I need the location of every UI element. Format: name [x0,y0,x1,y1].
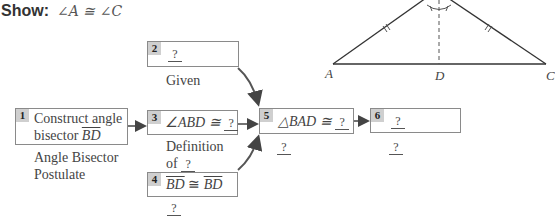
step-4-reason: ? [167,199,181,216]
answer-blank[interactable]: ? [335,116,349,130]
step-4-box: 4 BD ≅ BD [147,172,238,197]
step-5-reason: ? [277,138,291,155]
segment-bd: BD [82,128,101,143]
answer-blank[interactable]: ? [389,141,403,155]
answer-blank[interactable]: ? [168,48,182,62]
vertex-label-c: C [546,68,555,84]
segment-bd: BD [166,177,185,192]
step-number: 6 [371,109,384,122]
step-1-reason: Angle Bisector Postulate [34,149,118,183]
answer-blank[interactable]: ? [224,117,238,131]
step-6-box: 6 ? [370,108,461,133]
triangle-figure [333,0,546,64]
step-5-box: 5 △BAD ≅ ? [259,108,354,134]
step-6-reason: ? [389,138,403,155]
step-number: 5 [260,109,273,122]
vertex-label-a: A [325,66,333,82]
step-number: 2 [148,42,161,55]
arrow-4-to-5 [238,138,258,170]
step-1-box: 1 Construct angle bisector BD [15,108,128,145]
vertex-label-d: D [435,68,444,84]
step-3-box: 3 ∠ABD ≅ ? [147,110,238,135]
step-number: 3 [148,111,161,124]
step-number: 4 [148,173,161,186]
step-2-reason: Given [166,72,200,89]
answer-blank[interactable]: ? [277,141,291,155]
answer-blank[interactable]: ? [167,202,181,216]
answer-blank[interactable]: ? [391,115,405,129]
segment-bd: BD [204,177,223,192]
step-number: 1 [16,109,29,122]
step-3-reason: Definition of ? [166,138,224,172]
step-2-box: 2 ? [147,41,239,67]
arrow-2-to-5 [238,68,258,103]
step-1-statement: Construct angle bisector BD [34,110,122,144]
answer-blank[interactable]: ? [181,158,195,172]
